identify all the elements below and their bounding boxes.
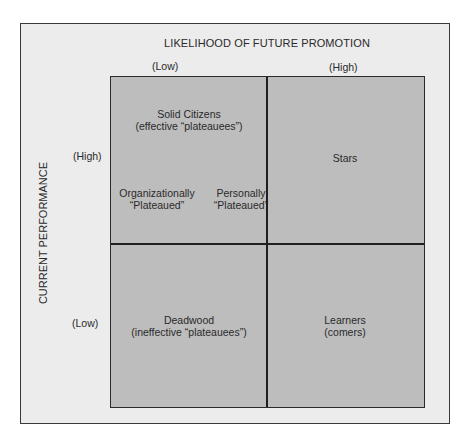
quadrant-stars: Stars [333, 152, 358, 164]
x-axis-title: LIKELIHOOD OF FUTURE PROMOTION [0, 37, 474, 49]
sub-personally-plateaued: Personally “Plateaued” [214, 187, 268, 211]
horizontal-divider [111, 243, 424, 245]
sub-label-line1: Organizationally [119, 187, 194, 199]
vertical-divider [266, 77, 268, 407]
sub-label-line2: “Plateaued” [119, 199, 194, 211]
quadrant-deadwood: Deadwood (ineffective “plateauees”) [131, 314, 246, 338]
sub-label-line2: “Plateaued” [214, 199, 268, 211]
quadrant-title: Stars [333, 152, 358, 164]
quadrant-subtitle: (effective “plateauees”) [135, 120, 242, 132]
x-axis-high-label: (High) [329, 61, 358, 73]
quadrant-subtitle: (comers) [324, 326, 365, 338]
y-axis-low-label: (Low) [72, 317, 98, 329]
y-axis-title: CURRENT PERFORMANCE [37, 162, 49, 304]
quadrant-solid-citizens: Solid Citizens (effective “plateauees”) [135, 108, 242, 132]
y-axis-high-label: (High) [73, 150, 102, 162]
quadrant-learners: Learners (comers) [324, 314, 365, 338]
quadrant-title: Solid Citizens [135, 108, 242, 120]
quadrant-grid: Solid Citizens (effective “plateauees”) … [110, 76, 425, 408]
quadrant-title: Deadwood [131, 314, 246, 326]
quadrant-subtitle: (ineffective “plateauees”) [131, 326, 246, 338]
sub-label-line1: Personally [214, 187, 268, 199]
sub-organizationally-plateaued: Organizationally “Plateaued” [119, 187, 194, 211]
x-axis-low-label: (Low) [152, 60, 178, 72]
quadrant-title: Learners [324, 314, 365, 326]
